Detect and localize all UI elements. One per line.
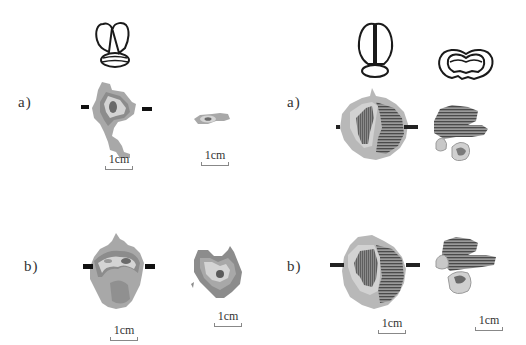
scale-bar-left-b2: 1cm <box>214 309 242 327</box>
scale-bar-left-a1: 1cm <box>105 152 133 170</box>
scale-label: 1cm <box>214 309 242 324</box>
lesion-map-right-a2 <box>432 103 496 165</box>
brain-dorsal-icon-right <box>356 20 396 80</box>
lesion-map-left-a2 <box>192 111 232 127</box>
marker-bar-right <box>145 264 155 269</box>
marker-bar-left <box>81 105 89 109</box>
panel-label-a-left: a) <box>18 94 32 111</box>
lesion-map-left-a1 <box>84 80 154 160</box>
lesion-map-right-b2 <box>434 233 504 299</box>
panel-label-b-left: b) <box>24 258 39 275</box>
panel-label-a-right: a) <box>287 94 301 111</box>
marker-bar-left <box>336 125 340 129</box>
lesion-map-right-a1 <box>336 88 422 168</box>
panel-label-b-right: b) <box>287 258 302 275</box>
scale-label: 1cm <box>378 316 406 331</box>
scale-bar-left-a2: 1cm <box>201 148 229 166</box>
scale-label: 1cm <box>110 323 138 338</box>
marker-bar-left <box>330 263 344 267</box>
scale-bar-left-b1: 1cm <box>110 323 138 341</box>
scale-label: 1cm <box>475 313 503 328</box>
marker-bar-left <box>83 264 93 269</box>
brain-coronal-icon <box>438 48 494 82</box>
lesion-map-left-b1 <box>82 233 158 315</box>
scale-label: 1cm <box>201 148 229 163</box>
marker-bar-right <box>142 107 152 111</box>
scale-bar-right-b1: 1cm <box>378 316 406 334</box>
lesion-map-right-b1 <box>330 233 426 315</box>
brain-dorsal-icon <box>95 20 135 70</box>
marker-bar-right <box>406 263 420 267</box>
scale-label: 1cm <box>105 152 133 167</box>
marker-bar-right <box>404 125 418 129</box>
lesion-map-left-b2 <box>190 246 246 304</box>
scale-bar-right-b2: 1cm <box>475 313 503 331</box>
